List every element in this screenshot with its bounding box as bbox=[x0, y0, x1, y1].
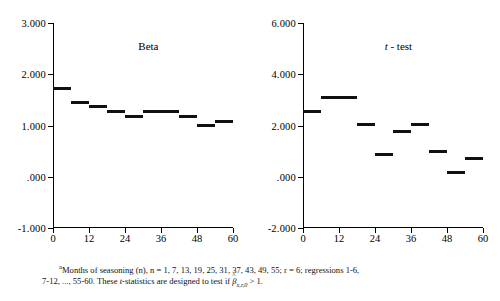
x-tick-label-0-5: 60 bbox=[228, 233, 239, 244]
x-axis-line-ttest bbox=[303, 227, 483, 228]
data-bar bbox=[429, 150, 447, 153]
beta-subscript: x,r,0 bbox=[237, 281, 248, 288]
data-bar bbox=[465, 157, 483, 160]
y-tick-0-3 bbox=[48, 177, 53, 178]
footnote-line-2-pre: 7-12, ..., 55-60. These bbox=[42, 276, 120, 286]
chart-panel-beta: Beta 3.0002.0001.000.000-1.0000122436486… bbox=[0, 0, 250, 255]
x-tick-label-0-4: 48 bbox=[192, 233, 203, 244]
data-bar bbox=[89, 105, 107, 108]
footnote-line-2-mid: -statistics are designed to test if bbox=[122, 276, 232, 286]
data-bar bbox=[125, 115, 143, 118]
x-tick-label-1-3: 36 bbox=[406, 233, 417, 244]
data-bar bbox=[393, 130, 411, 133]
x-tick-label-1-1: 12 bbox=[334, 233, 345, 244]
y-tick-label-1-1: 4.000 bbox=[271, 69, 296, 80]
data-bar bbox=[375, 153, 393, 156]
data-bar bbox=[197, 124, 215, 127]
x-tick-label-0-2: 24 bbox=[120, 233, 131, 244]
data-bar bbox=[179, 115, 197, 118]
y-tick-0-0 bbox=[48, 23, 53, 24]
x-tick-label-0-0: 0 bbox=[50, 233, 55, 244]
y-tick-label-1-3: .000 bbox=[277, 171, 296, 182]
data-bar bbox=[53, 87, 71, 90]
y-tick-label-1-2: 2.000 bbox=[271, 120, 296, 131]
data-bar bbox=[303, 110, 321, 113]
plot-area-ttest: 6.0004.0002.000.000-2.00001224364860 bbox=[303, 23, 483, 228]
chart-panel-ttest: t - test 6.0004.0002.000.000-2.000012243… bbox=[250, 0, 500, 255]
data-bar bbox=[107, 110, 125, 113]
data-bar bbox=[143, 110, 179, 113]
y-axis-line-ttest bbox=[303, 23, 304, 228]
footnote-line-2-end: > 1. bbox=[247, 276, 263, 286]
y-tick-label-0-0: 3.000 bbox=[21, 18, 46, 29]
y-tick-label-1-4: -2.000 bbox=[268, 223, 296, 234]
y-tick-0-2 bbox=[48, 126, 53, 127]
y-axis-line-beta bbox=[53, 23, 54, 228]
y-tick-label-0-2: 1.000 bbox=[21, 120, 46, 131]
figure-footnote: aMonths of seasoning (n), n = 1, 7, 13, … bbox=[42, 261, 462, 291]
y-tick-1-2 bbox=[298, 126, 303, 127]
data-bar bbox=[411, 123, 429, 126]
data-bar bbox=[447, 171, 465, 174]
y-tick-label-0-3: .000 bbox=[27, 171, 46, 182]
y-tick-1-1 bbox=[298, 74, 303, 75]
x-tick-label-1-5: 60 bbox=[478, 233, 489, 244]
figure-container: Beta 3.0002.0001.000.000-1.0000122436486… bbox=[0, 0, 500, 301]
data-bar bbox=[71, 101, 89, 104]
x-tick-label-1-2: 24 bbox=[370, 233, 381, 244]
x-tick-label-1-0: 0 bbox=[300, 233, 305, 244]
y-tick-label-0-4: -1.000 bbox=[18, 223, 46, 234]
beta-hat-symbol: ^β bbox=[232, 276, 236, 288]
hat-accent-icon: ^ bbox=[232, 272, 234, 279]
footnote-line-1: Months of seasoning (n), n = 1, 7, 13, 1… bbox=[62, 265, 359, 275]
x-axis-line-beta bbox=[53, 227, 233, 228]
y-tick-label-1-0: 6.000 bbox=[271, 18, 296, 29]
data-bar bbox=[357, 123, 375, 126]
data-bar bbox=[321, 96, 357, 99]
plot-area-beta: 3.0002.0001.000.000-1.00001224364860 bbox=[53, 23, 233, 228]
x-tick-label-0-3: 36 bbox=[156, 233, 167, 244]
y-tick-1-0 bbox=[298, 23, 303, 24]
x-tick-label-0-1: 12 bbox=[84, 233, 95, 244]
data-bar bbox=[215, 120, 233, 123]
x-tick-label-1-4: 48 bbox=[442, 233, 453, 244]
y-tick-1-3 bbox=[298, 177, 303, 178]
y-tick-label-0-1: 2.000 bbox=[21, 69, 46, 80]
y-tick-0-1 bbox=[48, 74, 53, 75]
